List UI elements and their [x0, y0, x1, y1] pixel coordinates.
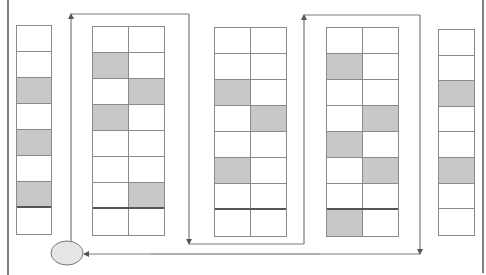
depot-ellipse: [51, 241, 83, 265]
warehouse-route-diagram: [0, 0, 486, 275]
route-overlay: [0, 0, 486, 275]
